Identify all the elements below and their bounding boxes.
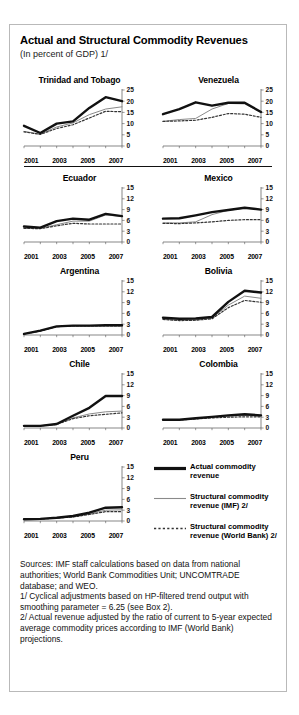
x-tick-label: 2005 (80, 346, 94, 353)
series-actual (163, 208, 261, 219)
x-tick-label: 2001 (163, 253, 177, 260)
x-tick-label: 2001 (163, 346, 177, 353)
x-tick-label: 2001 (24, 346, 38, 353)
series-actual (24, 396, 122, 426)
legend-label: Actual commodity revenue (187, 462, 284, 481)
x-tick-label: 2007 (109, 157, 123, 164)
page-title: Actual and Structural Commodity Revenues (20, 34, 286, 47)
y-tick-label: 9 (266, 206, 270, 213)
y-tick-label: 12 (127, 474, 135, 481)
y-tick-label: 15 (127, 370, 135, 377)
x-axis-labels: 2001200320052007 (24, 439, 123, 446)
x-tick-label: 2005 (80, 157, 94, 164)
y-tick-label: 0 (127, 142, 131, 149)
x-tick-label: 2001 (24, 439, 38, 446)
x-tick-label: 2007 (109, 439, 123, 446)
y-tick-label: 0 (127, 517, 131, 524)
chart-title: Peru (10, 452, 149, 462)
x-tick-label: 2005 (80, 253, 94, 260)
y-tick-label: 12 (266, 288, 274, 295)
x-tick-label: 2003 (191, 157, 205, 164)
chart-title: Bolivia (149, 266, 287, 276)
y-tick-label: 6 (266, 310, 270, 317)
y-tick-label: 0 (127, 424, 131, 431)
x-tick-label: 2007 (248, 439, 262, 446)
legend-label: Structural commodity revenue (World Bank… (187, 522, 284, 541)
x-tick-label: 2005 (219, 157, 233, 164)
x-tick-label: 2005 (80, 532, 94, 539)
x-axis-labels: 2001200320052007 (163, 253, 262, 260)
chart-cell-argentina: Argentina 03691215 2001200320052007 (10, 260, 149, 353)
legend-swatch-imf-icon (153, 492, 187, 501)
series-actual (24, 97, 122, 133)
x-tick-label: 2001 (163, 157, 177, 164)
y-tick-label: 6 (127, 310, 131, 317)
note-1: 1/ Cyclical adjustments based on HP-filt… (20, 591, 278, 612)
legend-swatch-actual-icon (153, 462, 187, 471)
x-tick-label: 2003 (52, 157, 66, 164)
chart-grid: Trinidad and Tobago 0510152025 200120032… (10, 69, 286, 551)
legend-item-worldbank: Structural commodity revenue (World Bank… (153, 522, 284, 541)
chart-row-5: Peru 03691215 2001200320052007 Actual co… (10, 446, 286, 551)
x-tick-label: 2001 (24, 253, 38, 260)
figure-panel: Actual and Structural Commodity Revenues… (9, 24, 287, 692)
chart-cell-mexico: Mexico 03691215 2001200320052007 (149, 167, 287, 260)
y-tick-label: 6 (127, 403, 131, 410)
chart-plot: 03691215 (20, 463, 147, 531)
y-tick-label: 3 (266, 414, 270, 421)
y-tick-label: 6 (127, 496, 131, 503)
y-tick-label: 3 (127, 507, 131, 514)
x-tick-label: 2007 (248, 253, 262, 260)
x-axis-labels: 2001200320052007 (163, 439, 262, 446)
x-tick-label: 2007 (109, 532, 123, 539)
chart-title: Argentina (10, 266, 149, 276)
chart-title: Mexico (149, 173, 287, 183)
y-tick-label: 3 (127, 228, 131, 235)
chart-title: Chile (10, 359, 149, 369)
chart-title: Venezuela (149, 75, 287, 85)
y-tick-label: 3 (266, 321, 270, 328)
y-tick-label: 9 (127, 206, 131, 213)
chart-plot: 0510152025 (20, 86, 147, 156)
series-actual (163, 291, 261, 319)
y-tick-label: 0 (266, 424, 270, 431)
y-tick-label: 15 (127, 463, 135, 470)
x-tick-label: 2003 (191, 439, 205, 446)
y-tick-label: 12 (127, 288, 135, 295)
y-tick-label: 6 (266, 403, 270, 410)
chart-cell-bolivia: Bolivia 03691215 2001200320052007 (149, 260, 287, 353)
x-tick-label: 2003 (52, 346, 66, 353)
chart-plot: 03691215 (159, 184, 286, 252)
legend-item-actual: Actual commodity revenue (153, 462, 284, 481)
y-tick-label: 15 (266, 109, 274, 116)
y-tick-label: 10 (127, 120, 135, 127)
x-tick-label: 2001 (163, 439, 177, 446)
y-tick-label: 3 (127, 414, 131, 421)
x-axis-labels: 2001200320052007 (163, 157, 262, 164)
y-tick-label: 12 (127, 381, 135, 388)
x-tick-label: 2003 (191, 253, 205, 260)
y-tick-label: 9 (266, 392, 270, 399)
chart-plot: 0510152025 (159, 86, 286, 156)
y-tick-label: 12 (266, 381, 274, 388)
x-tick-label: 2007 (109, 346, 123, 353)
chart-cell-peru: Peru 03691215 2001200320052007 (10, 446, 149, 551)
chart-cell-trinidad-and-tobago: Trinidad and Tobago 0510152025 200120032… (10, 69, 149, 164)
note-sources: Sources: IMF staff calculations based on… (20, 559, 278, 591)
x-axis-labels: 2001200320052007 (24, 532, 123, 539)
y-tick-label: 15 (266, 370, 274, 377)
chart-title: Colombia (149, 359, 287, 369)
y-tick-label: 0 (266, 238, 270, 245)
y-tick-label: 5 (127, 131, 131, 138)
x-tick-label: 2003 (52, 439, 66, 446)
x-tick-label: 2001 (24, 532, 38, 539)
y-tick-label: 0 (266, 142, 270, 149)
x-tick-label: 2005 (219, 346, 233, 353)
chart-plot: 03691215 (20, 370, 147, 438)
y-tick-label: 9 (127, 392, 131, 399)
y-tick-label: 15 (266, 277, 274, 284)
chart-row-1: Trinidad and Tobago 0510152025 200120032… (10, 69, 286, 164)
y-tick-label: 15 (127, 184, 135, 191)
chart-cell-ecuador: Ecuador 03691215 2001200320052007 (10, 167, 149, 260)
note-2: 2/ Actual revenue adjusted by the ratio … (20, 612, 278, 644)
